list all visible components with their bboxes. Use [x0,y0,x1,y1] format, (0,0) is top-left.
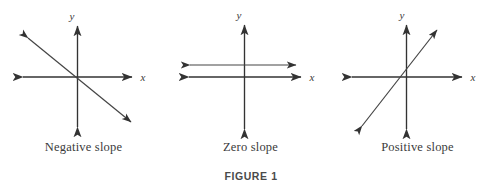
caption-positive-slope: Positive slope [334,140,501,155]
x-axis-label-zero: x [309,71,315,83]
plot-negative-slope: y x [0,0,167,140]
x-axis-label-positive: x [470,71,476,83]
plot-positive-slope: y x [334,0,501,140]
caption-negative-slope: Negative slope [0,140,167,155]
panel-zero-slope: y x Zero slope [167,0,334,170]
positive-slope-line [362,30,437,126]
negative-slope-line [28,38,131,122]
panel-positive-slope: y x Positive slope [334,0,501,170]
panel-negative-slope: y x Negative slope [0,0,167,170]
figure-container: y x Negative slope y x [0,0,502,193]
plot-zero-slope: y x [167,0,334,140]
y-axis-label-positive: y [399,9,405,21]
y-axis-label-negative: y [69,10,75,22]
figure-number-label: FIGURE 1 [0,170,502,182]
x-axis-label-negative: x [140,71,146,83]
y-axis-label-zero: y [236,9,242,21]
caption-zero-slope: Zero slope [167,140,334,155]
